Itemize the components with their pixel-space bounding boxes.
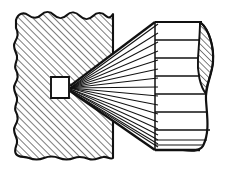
end-cap — [198, 22, 213, 94]
drawing-canvas — [0, 0, 226, 172]
technical-drawing-figure — [0, 0, 226, 172]
aperture — [51, 77, 69, 98]
